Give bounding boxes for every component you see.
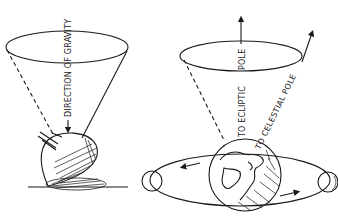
earth-precession-panel: POLE TO ECLIPTIC TO CELESTIAL POLE (142, 19, 338, 211)
orbit-arrow-right (280, 192, 297, 196)
spinning-top (28, 132, 128, 190)
earth-outline (209, 139, 281, 211)
top-cone-solid-side (82, 51, 127, 138)
orbit-arrow-left (183, 163, 200, 167)
precession-diagram: DIRECTION OF GRAVITY (0, 0, 338, 216)
spinning-top-panel: DIRECTION OF GRAVITY (6, 19, 128, 190)
earth-continents (220, 152, 263, 200)
ecliptic-pole-label-top: POLE (238, 49, 247, 70)
earth-globe (209, 139, 281, 211)
earth-cone-dashed-side (184, 60, 224, 140)
celestial-pole-arrow (302, 33, 312, 62)
moon-orbit (150, 154, 330, 206)
celestial-pole-label: TO CELESTIAL POLE (253, 73, 298, 152)
top-cone-dashed-side (7, 50, 54, 136)
gravity-label: DIRECTION OF GRAVITY (64, 19, 73, 117)
earth-shading (238, 150, 279, 210)
ecliptic-label: TO ECLIPTIC (238, 86, 247, 138)
